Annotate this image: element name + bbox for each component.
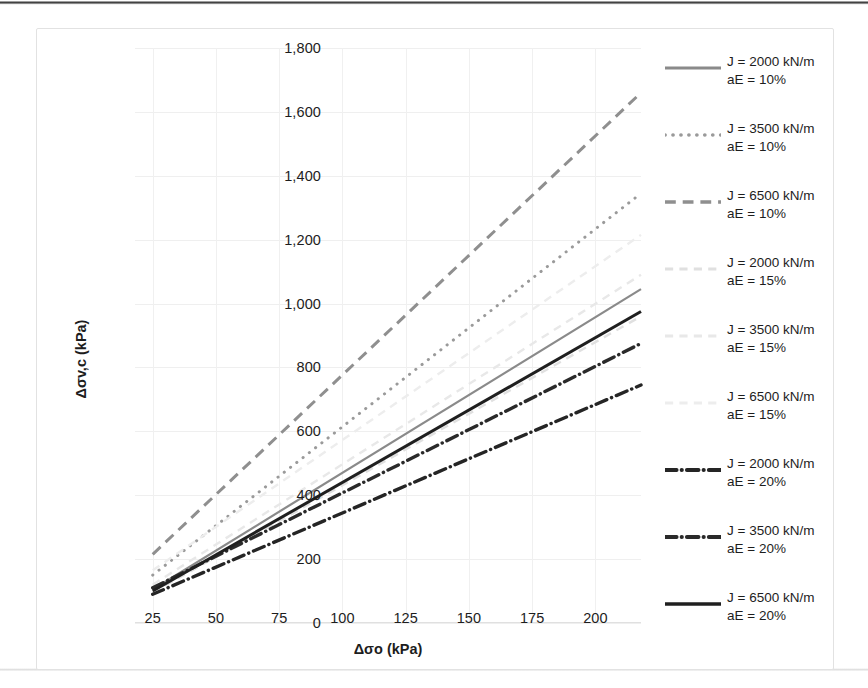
plot-area bbox=[135, 48, 641, 623]
legend-item[interactable]: J = 6500 kN/maE = 15% bbox=[665, 388, 833, 434]
legend-label: J = 6500 kN/maE = 15% bbox=[727, 388, 814, 424]
legend-label-line1: J = 2000 kN/m bbox=[727, 53, 814, 71]
y-tick-label: 800 bbox=[297, 359, 322, 375]
series-lines bbox=[135, 48, 641, 623]
y-tick-label: 0 bbox=[313, 615, 321, 631]
legend-swatch-icon bbox=[665, 529, 721, 541]
legend-item[interactable]: J = 2000 kN/maE = 10% bbox=[665, 53, 833, 99]
x-tick-label: 175 bbox=[520, 610, 545, 626]
legend-label-line2: aE = 15% bbox=[727, 272, 814, 290]
legend-label-line1: J = 3500 kN/m bbox=[727, 522, 814, 540]
y-tick-label: 400 bbox=[297, 487, 322, 503]
legend-swatch-icon bbox=[665, 596, 721, 608]
legend-label-line2: aE = 20% bbox=[727, 540, 814, 558]
legend-label-line1: J = 6500 kN/m bbox=[727, 388, 814, 406]
x-tick-label: 75 bbox=[271, 610, 287, 626]
y-tick-label: 1,400 bbox=[284, 168, 321, 184]
series-line bbox=[153, 193, 641, 575]
legend-label-line1: J = 2000 kN/m bbox=[727, 254, 814, 272]
y-tick-label: 1,600 bbox=[284, 104, 321, 120]
legend-swatch-icon bbox=[665, 60, 721, 72]
x-tick-label: 50 bbox=[208, 610, 224, 626]
legend-item[interactable]: J = 2000 kN/maE = 15% bbox=[665, 254, 833, 300]
legend-label: J = 6500 kN/maE = 20% bbox=[727, 589, 814, 625]
legend-swatch-icon bbox=[665, 194, 721, 206]
legend-label: J = 3500 kN/maE = 20% bbox=[727, 522, 814, 558]
legend-item[interactable]: J = 3500 kN/maE = 15% bbox=[665, 321, 833, 367]
x-tick-label: 100 bbox=[330, 610, 355, 626]
legend-label-line2: aE = 20% bbox=[727, 607, 814, 625]
y-tick-label: 1,200 bbox=[284, 232, 321, 248]
scan-artifact-top bbox=[0, 0, 868, 5]
legend-swatch-icon bbox=[665, 462, 721, 474]
legend-label-line2: aE = 15% bbox=[727, 406, 814, 424]
legend-label-line2: aE = 10% bbox=[727, 138, 814, 156]
legend-item[interactable]: J = 2000 kN/maE = 20% bbox=[665, 455, 833, 501]
legend-swatch-icon bbox=[665, 127, 721, 139]
y-axis-label: Δσv,c (kPa) bbox=[73, 320, 89, 399]
legend-label-line2: aE = 10% bbox=[727, 205, 814, 223]
legend-label-line1: J = 6500 kN/m bbox=[727, 589, 814, 607]
series-line bbox=[153, 312, 641, 592]
legend-label: J = 6500 kN/maE = 10% bbox=[727, 187, 814, 223]
legend-item[interactable]: J = 6500 kN/maE = 10% bbox=[665, 187, 833, 233]
x-tick-label: 150 bbox=[457, 610, 482, 626]
legend-item[interactable]: J = 3500 kN/maE = 20% bbox=[665, 522, 833, 568]
legend-label: J = 2000 kN/maE = 10% bbox=[727, 53, 814, 89]
legend-label-line2: aE = 20% bbox=[727, 473, 814, 491]
y-tick-label: 200 bbox=[297, 551, 322, 567]
x-tick-label: 125 bbox=[393, 610, 418, 626]
legend-label-line1: J = 6500 kN/m bbox=[727, 187, 814, 205]
legend-label: J = 3500 kN/maE = 10% bbox=[727, 120, 814, 156]
legend-label: J = 2000 kN/maE = 15% bbox=[727, 254, 814, 290]
legend-label-line1: J = 2000 kN/m bbox=[727, 455, 814, 473]
legend-swatch-icon bbox=[665, 395, 721, 407]
x-axis-label: Δσo (kPa) bbox=[135, 641, 641, 657]
legend-item[interactable]: J = 6500 kN/maE = 20% bbox=[665, 589, 833, 635]
x-tick-label: 200 bbox=[583, 610, 608, 626]
legend-label-line1: J = 3500 kN/m bbox=[727, 120, 814, 138]
y-tick-label: 1,000 bbox=[284, 296, 321, 312]
legend-label-line1: J = 3500 kN/m bbox=[727, 321, 814, 339]
series-line bbox=[153, 235, 641, 570]
chart-frame: Δσv,c (kPa) Δσo (kPa) 02004006008001,000… bbox=[36, 28, 834, 670]
series-line bbox=[153, 275, 641, 585]
x-tick-label: 25 bbox=[145, 610, 161, 626]
legend-label: J = 3500 kN/maE = 15% bbox=[727, 321, 814, 357]
series-line bbox=[153, 343, 641, 587]
y-tick-label: 1,800 bbox=[284, 40, 321, 56]
legend-label: J = 2000 kN/maE = 20% bbox=[727, 455, 814, 491]
legend-swatch-icon bbox=[665, 328, 721, 340]
series-line bbox=[153, 289, 641, 589]
legend-item[interactable]: J = 3500 kN/maE = 10% bbox=[665, 120, 833, 166]
series-line bbox=[153, 93, 641, 555]
legend-label-line2: aE = 10% bbox=[727, 71, 814, 89]
legend-label-line2: aE = 15% bbox=[727, 339, 814, 357]
y-tick-label: 600 bbox=[297, 423, 322, 439]
series-line bbox=[153, 385, 641, 594]
legend-swatch-icon bbox=[665, 261, 721, 273]
